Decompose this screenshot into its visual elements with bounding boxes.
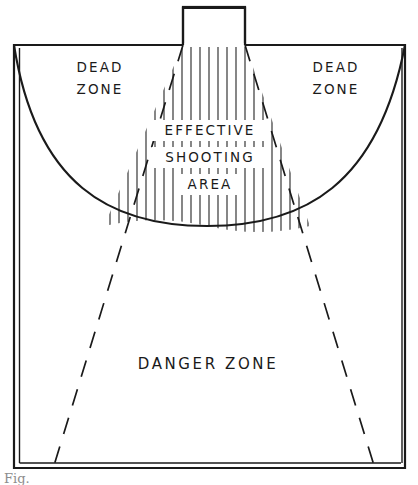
dead-zone-left-line2: ZONE (77, 81, 124, 97)
figure-root: DEAD ZONE DEAD ZONE EFFECTIVE SHOOTING A… (0, 0, 418, 485)
line-of-fire-boundaries (52, 45, 376, 472)
effective-shooting-area-line2: SHOOTING (165, 149, 255, 165)
gun-emplacement-structure (183, 7, 245, 47)
cone-line-left (52, 45, 183, 472)
effective-shooting-area-line1: EFFECTIVE (165, 122, 256, 138)
effective-shooting-area-line3: AREA (188, 176, 233, 192)
shooting-area-diagram: DEAD ZONE DEAD ZONE EFFECTIVE SHOOTING A… (0, 0, 418, 485)
cone-line-right (245, 45, 376, 472)
dead-zone-left-line1: DEAD (77, 59, 124, 75)
dead-zone-right-line1: DEAD (313, 59, 360, 75)
dead-zone-right-line2: ZONE (313, 81, 360, 97)
figure-caption-text: Fig. (4, 471, 30, 485)
figure-caption: Fig. (4, 471, 30, 485)
danger-zone-label: DANGER ZONE (138, 355, 278, 373)
